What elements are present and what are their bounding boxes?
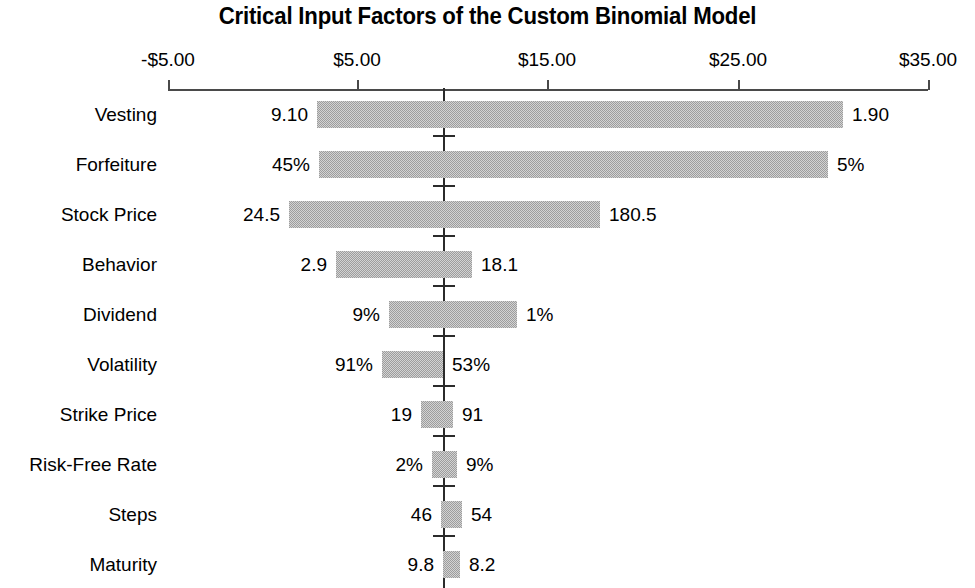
tornado-row: Forfeiture45%5% (0, 140, 975, 190)
tornado-bar (389, 301, 517, 328)
tornado-bar (443, 551, 460, 578)
row-category-label: Behavior (0, 252, 157, 277)
row-high-value-label: 180.5 (609, 202, 657, 227)
row-high-value-label: 5% (837, 152, 864, 177)
row-category-label: Steps (0, 502, 157, 527)
row-category-label: Forfeiture (0, 152, 157, 177)
row-low-value-label: 2% (396, 452, 423, 477)
row-high-value-label: 8.2 (469, 552, 495, 577)
row-low-value-label: 9.10 (271, 102, 308, 127)
tornado-bar (382, 351, 443, 378)
tornado-row: Behavior2.918.1 (0, 240, 975, 290)
row-low-value-label: 46 (411, 502, 432, 527)
row-separator-tick (433, 335, 455, 337)
row-high-value-label: 18.1 (481, 252, 518, 277)
tornado-bar (421, 401, 453, 428)
row-high-value-label: 53% (452, 352, 490, 377)
tornado-row: Strike Price1991 (0, 390, 975, 440)
row-category-label: Dividend (0, 302, 157, 327)
tornado-bar (336, 251, 472, 278)
row-high-value-label: 1.90 (852, 102, 889, 127)
tornado-row: Dividend9%1% (0, 290, 975, 340)
row-category-label: Risk-Free Rate (0, 452, 157, 477)
tornado-bar (317, 101, 843, 128)
row-low-value-label: 91% (335, 352, 373, 377)
row-low-value-label: 9% (353, 302, 380, 327)
row-category-label: Volatility (0, 352, 157, 377)
tornado-row: Vesting9.101.90 (0, 90, 975, 140)
row-category-label: Maturity (0, 552, 157, 577)
row-low-value-label: 2.9 (301, 252, 327, 277)
row-separator-tick (433, 185, 455, 187)
tornado-row: Risk-Free Rate2%9% (0, 440, 975, 490)
row-category-label: Stock Price (0, 202, 157, 227)
row-separator-tick (433, 435, 455, 437)
row-separator-tick (433, 385, 455, 387)
row-category-label: Vesting (0, 102, 157, 127)
row-category-label: Strike Price (0, 402, 157, 427)
row-separator-tick (433, 485, 455, 487)
row-high-value-label: 9% (466, 452, 493, 477)
row-high-value-label: 91 (462, 402, 483, 427)
tornado-bar (319, 151, 828, 178)
tornado-chart: Critical Input Factors of the Custom Bin… (0, 0, 975, 588)
row-high-value-label: 54 (471, 502, 492, 527)
tornado-row: Stock Price24.5180.5 (0, 190, 975, 240)
tornado-row: Steps4654 (0, 490, 975, 540)
row-low-value-label: 45% (272, 152, 310, 177)
tornado-row: Volatility91%53% (0, 340, 975, 390)
row-high-value-label: 1% (526, 302, 553, 327)
tornado-row: Maturity9.88.2 (0, 540, 975, 588)
row-separator-tick (433, 235, 455, 237)
row-separator-tick (433, 285, 455, 287)
tornado-bar (289, 201, 600, 228)
row-separator-tick (433, 135, 455, 137)
row-low-value-label: 9.8 (408, 552, 434, 577)
row-low-value-label: 24.5 (243, 202, 280, 227)
row-low-value-label: 19 (391, 402, 412, 427)
tornado-bar (432, 451, 457, 478)
plot-area: Vesting9.101.90Forfeiture45%5%Stock Pric… (0, 0, 975, 588)
tornado-bar (441, 501, 462, 528)
row-separator-tick (433, 535, 455, 537)
